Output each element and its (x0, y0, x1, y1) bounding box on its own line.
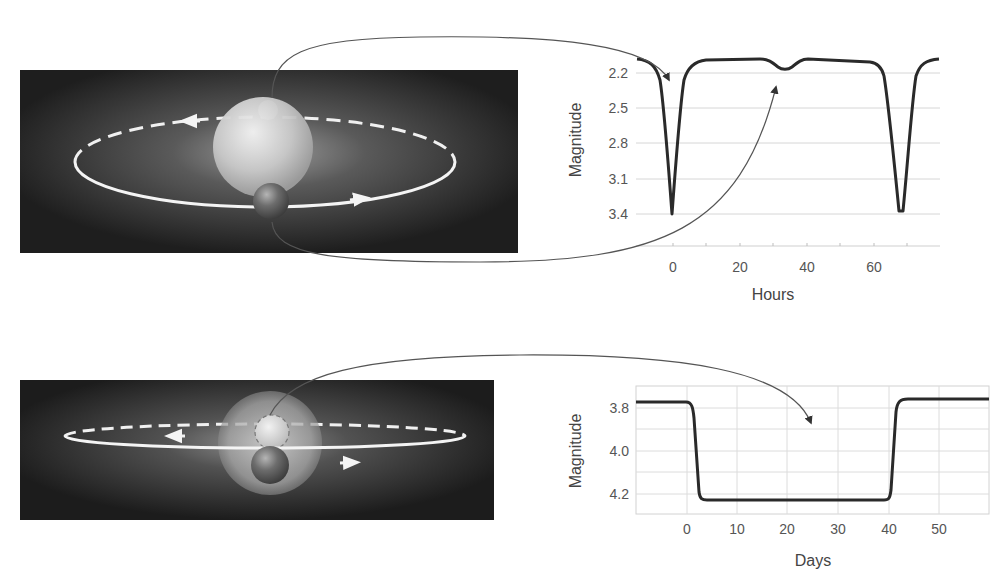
x-tick-labels: 0 20 40 60 (669, 259, 882, 275)
y-tick-2-5: 2.5 (609, 100, 629, 116)
y-tick-labels: 2.2 2.5 2.8 3.1 3.4 (609, 65, 629, 222)
y-tick-2-2: 2.2 (609, 65, 629, 81)
companion-star-front (253, 183, 289, 219)
companion-star-front (251, 446, 289, 484)
x-tick-40: 40 (881, 521, 897, 537)
top-binary-illustration (20, 70, 518, 253)
plot-area (636, 386, 989, 514)
y-tick-4-2: 4.2 (610, 486, 630, 502)
orbit-direction-arrow-front (340, 463, 352, 464)
x-tick-60: 60 (866, 259, 882, 275)
x-tick-30: 30 (830, 521, 846, 537)
y-tick-3-1: 3.1 (609, 171, 629, 187)
x-tick-labels: 0 10 20 30 40 50 (683, 521, 947, 537)
x-tick-40: 40 (799, 259, 815, 275)
x-axis-title: Days (795, 552, 831, 569)
x-tick-10: 10 (729, 521, 745, 537)
x-tick-50: 50 (931, 521, 947, 537)
x-tick-20: 20 (779, 521, 795, 537)
light-curve-line (637, 59, 939, 214)
x-tick-0: 0 (669, 259, 677, 275)
y-axis-title: Magnitude (567, 414, 584, 489)
y-tick-4-0: 4.0 (610, 443, 630, 459)
primary-star (213, 97, 313, 197)
y-tick-3-4: 3.4 (609, 206, 629, 222)
y-tick-labels: 3.8 4.0 4.2 (610, 400, 630, 502)
top-light-curve-chart: 2.2 2.5 2.8 3.1 3.4 0 20 40 60 Hours Mag… (567, 59, 940, 303)
x-tick-20: 20 (732, 259, 748, 275)
y-tick-2-8: 2.8 (609, 135, 629, 151)
orbit-direction-arrow-front (350, 199, 362, 201)
bottom-binary-illustration (20, 380, 494, 520)
y-tick-3-8: 3.8 (610, 400, 630, 416)
x-tick-0: 0 (683, 521, 691, 537)
x-axis-title: Hours (752, 286, 795, 303)
figure-canvas: 2.2 2.5 2.8 3.1 3.4 0 20 40 60 Hours Mag… (0, 0, 1006, 579)
bottom-light-curve-chart: 3.8 4.0 4.2 0 10 20 30 40 50 Days Magnit… (567, 386, 989, 569)
eclipsed-star-behind (255, 415, 289, 449)
y-axis-title: Magnitude (567, 103, 584, 178)
